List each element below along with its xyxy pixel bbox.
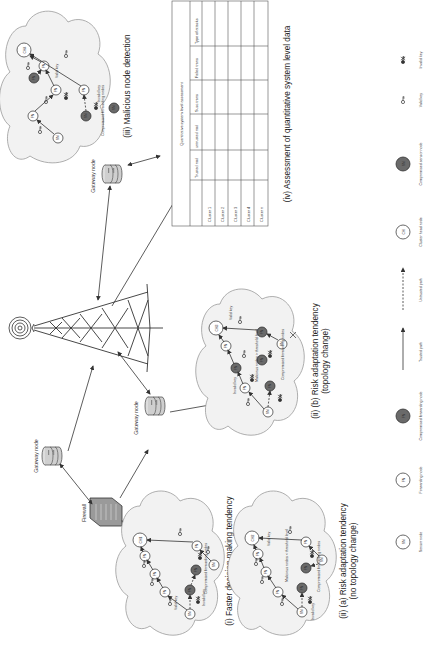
svg-text:Sensor node: Sensor node bbox=[419, 532, 423, 552]
svg-text:CH4: CH4 bbox=[23, 47, 27, 54]
cluster-cloud bbox=[196, 289, 305, 435]
svg-text:CH3: CH3 bbox=[215, 325, 219, 332]
sensor-node: SN bbox=[209, 560, 219, 570]
forwarding-node: FN bbox=[273, 587, 283, 597]
legend-trusted-path: Trusted path bbox=[403, 328, 423, 370]
cluster-head-node: CH4 bbox=[17, 43, 31, 57]
legend-untrusted-path: Untrusted path bbox=[403, 268, 423, 310]
svg-text:Trusted path: Trusted path bbox=[419, 342, 423, 362]
svg-text:FN: FN bbox=[300, 585, 304, 590]
panel-caption: (iv) Assessment of quantitative system l… bbox=[283, 25, 292, 202]
table-row-label: Cluster 2 bbox=[221, 207, 225, 222]
sensor-node: SN bbox=[53, 133, 63, 143]
firewall-icon bbox=[90, 498, 122, 526]
table-row-label: Cluster 4 bbox=[247, 207, 251, 222]
forwarding-node: FN bbox=[28, 111, 38, 121]
table-header: untrusted nod bbox=[195, 125, 199, 148]
legend-valid-key: Valid key bbox=[401, 93, 423, 108]
svg-text:SN: SN bbox=[300, 609, 304, 614]
svg-text:FN: FN bbox=[54, 87, 58, 92]
threshold-label: Malicious nodes < threshold level bbox=[285, 529, 289, 582]
svg-text:FN: FN bbox=[264, 569, 268, 574]
svg-text:Valid key: Valid key bbox=[419, 93, 423, 108]
svg-text:Invalid key: Invalid key bbox=[311, 603, 315, 620]
invalid-key-icon bbox=[401, 57, 405, 64]
compromised-label: Compromised forwarding nodes bbox=[101, 85, 105, 136]
svg-text:FN: FN bbox=[195, 543, 199, 548]
antenna-signal-icon bbox=[9, 317, 31, 339]
gateway-node-right-bottom: Gateway node bbox=[133, 397, 165, 435]
svg-text:FN: FN bbox=[260, 357, 264, 362]
svg-text:Valid key: Valid key bbox=[174, 595, 178, 610]
svg-text:Compromised sensor node: Compromised sensor node bbox=[419, 142, 423, 185]
svg-text:FN: FN bbox=[188, 587, 192, 592]
svg-text:Cluster head node: Cluster head node bbox=[419, 217, 423, 246]
gateway-label: Gateway node bbox=[33, 439, 39, 473]
table-row-label: Cluster 1 bbox=[208, 207, 212, 222]
svg-text:Valid key: Valid key bbox=[267, 531, 271, 546]
sensor-node: SN bbox=[263, 407, 273, 417]
legend: SN Sensor node FN Forwarding node FN Com… bbox=[396, 51, 423, 552]
svg-text:Invalid key: Invalid key bbox=[419, 51, 423, 68]
svg-text:FN: FN bbox=[260, 329, 264, 334]
compromised-label: Compromised forwarding nodes bbox=[317, 541, 321, 592]
svg-text:FN: FN bbox=[243, 385, 247, 390]
compromised-forwarding-node: FN bbox=[185, 585, 195, 595]
compromised-forwarding-node: FN bbox=[29, 73, 39, 83]
legend-compromised-sensor-node: SN Compromised sensor node bbox=[396, 142, 423, 185]
panel-ii-b-risk-topology-change: CH3 SN FN FN FN FN FN FN SN Malicious no… bbox=[196, 289, 330, 435]
compromised-forwarding-node: FN bbox=[301, 563, 311, 573]
cluster-head-node: CH2 bbox=[245, 531, 259, 545]
forwarding-node: FN bbox=[160, 587, 170, 597]
table-header: Type of attacks bbox=[195, 18, 199, 44]
firewall: Firewall bbox=[81, 498, 122, 526]
panel-caption: (ii) (a) Risk adaptation tendency bbox=[339, 502, 348, 618]
forwarding-node: FN bbox=[240, 383, 250, 393]
compromised-forwarding-node: FN bbox=[191, 565, 201, 575]
compromised-forwarding-node: FN bbox=[231, 363, 241, 373]
gateway-label: Gateway node bbox=[133, 401, 139, 435]
svg-text:FN: FN bbox=[304, 539, 308, 544]
svg-text:Forwarding node: Forwarding node bbox=[419, 467, 423, 494]
forwarding-node: FN bbox=[221, 341, 231, 351]
svg-text:FN: FN bbox=[32, 75, 36, 80]
tower-icon bbox=[32, 284, 163, 372]
firewall-label: Firewall bbox=[81, 504, 87, 522]
server-icon bbox=[145, 397, 165, 415]
compromised-sensor-node: SN bbox=[109, 103, 119, 113]
forwarding-node: FN bbox=[79, 85, 89, 95]
svg-text:SN: SN bbox=[112, 105, 116, 110]
svg-text:SN: SN bbox=[402, 161, 406, 166]
svg-text:CH: CH bbox=[402, 229, 406, 234]
svg-text:FN: FN bbox=[82, 87, 86, 92]
svg-text:FN: FN bbox=[163, 589, 167, 594]
svg-text:FN: FN bbox=[194, 567, 198, 572]
forwarding-node: FN bbox=[253, 549, 263, 559]
svg-text:Compromised forwarding node: Compromised forwarding node bbox=[419, 391, 423, 440]
compromised-label: Compromised forwarding nodes bbox=[204, 543, 208, 594]
forwarding-node: FN bbox=[261, 567, 271, 577]
table-header: Succ.trans bbox=[195, 94, 199, 112]
gateway-node-left: Gateway node bbox=[33, 439, 62, 473]
server-icon bbox=[102, 165, 122, 183]
compromised-label: Compromised forwarding nodes bbox=[281, 329, 285, 380]
svg-text:FN: FN bbox=[153, 571, 157, 576]
svg-text:FN: FN bbox=[143, 553, 147, 558]
forwarding-node: FN bbox=[51, 85, 61, 95]
tower-group bbox=[9, 284, 163, 372]
forwarding-node: FN bbox=[301, 537, 311, 547]
panel-caption: (ii) (b) Risk adaptation tendency bbox=[311, 302, 320, 418]
legend-compromised-forwarding-node: FN Compromised forwarding node bbox=[396, 391, 423, 440]
gateway-node-right: Gateway node bbox=[90, 159, 122, 193]
gateway-label: Gateway node bbox=[90, 159, 96, 193]
panel-iii-malicious-detection: CH4 SN FN FN FN FN FN SN SN Valid key In… bbox=[0, 11, 132, 163]
svg-text:FN: FN bbox=[256, 551, 260, 556]
panel-ii-a-risk-no-topology-change: CH2 SN FN FN FN FN FN FN SN Malicious no… bbox=[228, 491, 358, 635]
sensor-node: SN bbox=[185, 609, 195, 619]
svg-text:FN: FN bbox=[268, 383, 272, 388]
legend-cluster-head-node: CH Cluster head node bbox=[396, 217, 423, 246]
panel-caption-sub: (no topology change) bbox=[349, 522, 358, 599]
svg-text:Invalid key: Invalid key bbox=[233, 377, 237, 394]
table-header: Trusted nod bbox=[195, 158, 199, 178]
svg-text:Untrusted path: Untrusted path bbox=[419, 278, 423, 302]
